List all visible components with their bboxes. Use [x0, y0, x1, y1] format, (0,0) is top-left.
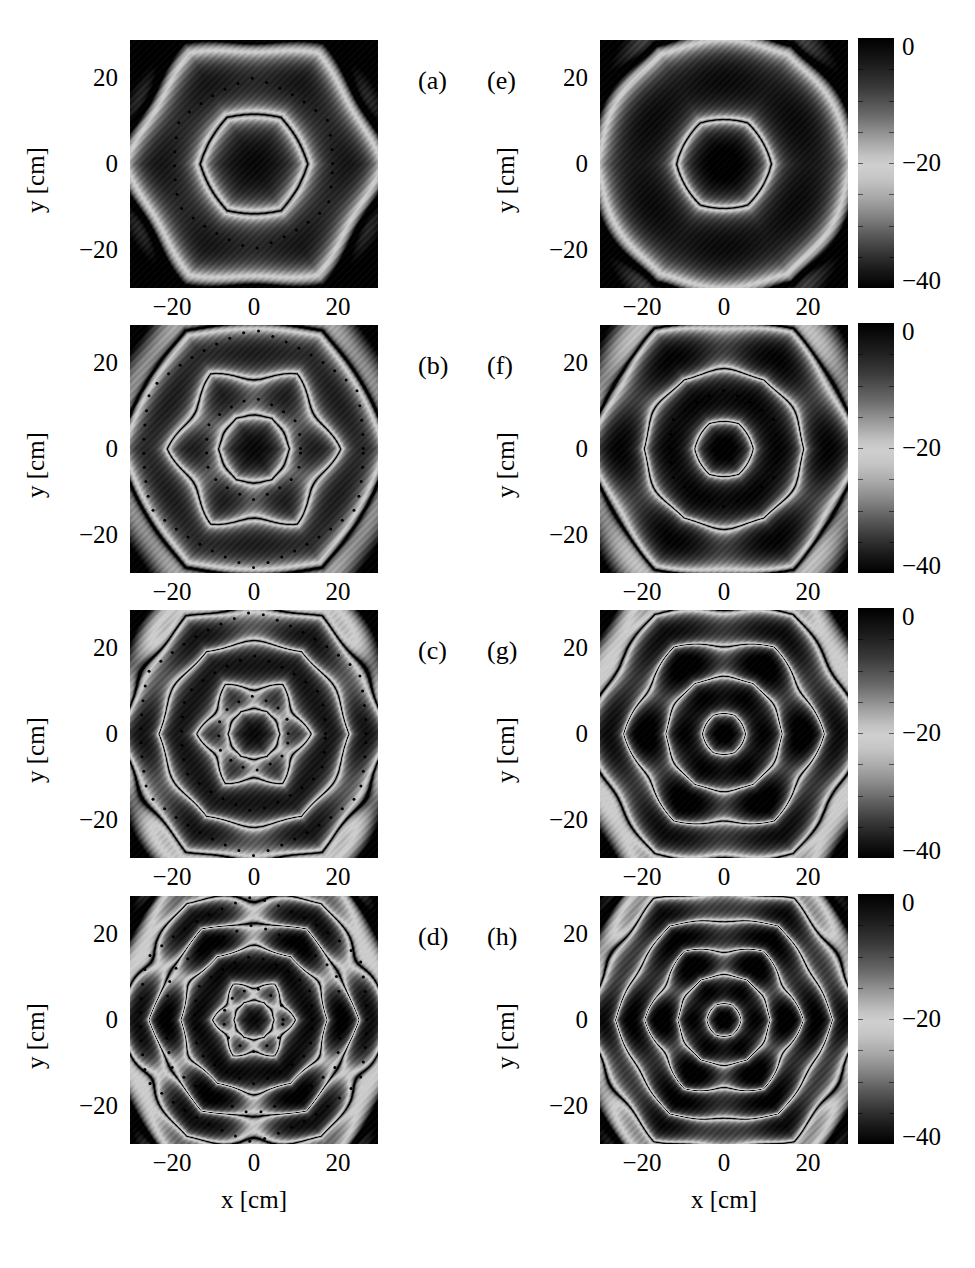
- panel-f-xtick-1: 0: [684, 579, 764, 604]
- colorbar-tick-right-4: [889, 1019, 894, 1020]
- panel-g-yaxis-title: y [cm]: [492, 717, 520, 783]
- colorbar-tick-right-4: [889, 448, 894, 449]
- panel-e-xtick-1: 0: [684, 294, 764, 319]
- panel-a-ytick-2: −20: [52, 237, 118, 262]
- panel-b-image: [130, 325, 378, 573]
- panel-h-colorbar-label-0: 0: [902, 890, 915, 915]
- colorbar-tick-left-7: [858, 542, 863, 543]
- panel-g-image: [600, 610, 848, 858]
- colorbar-tick-left-4: [858, 448, 863, 449]
- panel-c-ytick-0: 20: [52, 635, 118, 660]
- panel-c-xtick-0: −20: [132, 864, 212, 889]
- panel-f-image: [600, 325, 848, 573]
- panel-c-ytick-2: −20: [52, 807, 118, 832]
- panel-g-label: (g): [487, 636, 517, 666]
- panel-h-xtick-0: −20: [602, 1150, 682, 1175]
- panel-d-yaxis-title: y [cm]: [22, 1003, 50, 1069]
- panel-e-yaxis-title: y [cm]: [492, 147, 520, 213]
- colorbar-tick-right-2: [889, 101, 894, 102]
- panel-e-ytick-1: 0: [522, 151, 588, 176]
- colorbar-tick-right-7: [889, 827, 894, 828]
- panel-f-yaxis-title: y [cm]: [492, 432, 520, 498]
- colorbar-tick-left-1: [858, 69, 863, 70]
- panel-b-label: (b): [418, 351, 448, 381]
- panel-d-ytick-0: 20: [52, 921, 118, 946]
- panel-e-canvas: [600, 40, 848, 288]
- panel-f-xtick-0: −20: [602, 579, 682, 604]
- panel-d-ytick-1: 0: [52, 1007, 118, 1032]
- panel-h-ytick-0: 20: [522, 921, 588, 946]
- panel-h-xtick-2: 20: [768, 1150, 848, 1175]
- panel-b-xtick-1: 0: [214, 579, 294, 604]
- colorbar-tick-left-4: [858, 163, 863, 164]
- colorbar-tick-left-1: [858, 639, 863, 640]
- panel-a-yaxis-title: y [cm]: [22, 147, 50, 213]
- panel-c-label: (c): [418, 636, 447, 666]
- panel-c-yaxis-title: y [cm]: [22, 717, 50, 783]
- panel-a-label: (a): [418, 66, 447, 96]
- panel-d-label: (d): [418, 922, 448, 952]
- panel-h-colorbar[interactable]: [858, 894, 894, 1144]
- colorbar-tick-right-5: [889, 764, 894, 765]
- panel-a-ytick-1: 0: [52, 151, 118, 176]
- colorbar-tick-right-1: [889, 69, 894, 70]
- colorbar-tick-left-6: [858, 796, 863, 797]
- panel-e-colorbar[interactable]: [858, 38, 894, 288]
- panel-e-colorbar-label-0: 0: [902, 34, 915, 59]
- colorbar-tick-right-1: [889, 639, 894, 640]
- panel-f-xtick-2: 20: [768, 579, 848, 604]
- panel-a-xtick-2: 20: [298, 294, 378, 319]
- panel-f-colorbar-label-1: −20: [902, 435, 941, 460]
- panel-a-canvas: [130, 40, 378, 288]
- colorbar-tick-left-3: [858, 417, 863, 418]
- panel-f-label: (f): [487, 351, 513, 381]
- colorbar-tick-right-3: [889, 417, 894, 418]
- colorbar-tick-right-4: [889, 163, 894, 164]
- panel-d-xtick-1: 0: [214, 1150, 294, 1175]
- colorbar-tick-right-3: [889, 702, 894, 703]
- colorbar-tick-left-2: [858, 101, 863, 102]
- panel-e-label: (e): [487, 66, 516, 96]
- colorbar-tick-right-6: [889, 226, 894, 227]
- colorbar-tick-right-6: [889, 1082, 894, 1083]
- panel-g-colorbar-label-0: 0: [902, 604, 915, 629]
- panel-f-colorbar[interactable]: [858, 323, 894, 573]
- colorbar-tick-right-6: [889, 511, 894, 512]
- colorbar-tick-right-1: [889, 354, 894, 355]
- panel-a-image: [130, 40, 378, 288]
- colorbar-tick-right-1: [889, 925, 894, 926]
- colorbar-tick-right-5: [889, 1050, 894, 1051]
- panel-b-ytick-1: 0: [52, 436, 118, 461]
- panel-g-ytick-0: 20: [522, 635, 588, 660]
- colorbar-tick-right-3: [889, 132, 894, 133]
- panel-f-canvas: [600, 325, 848, 573]
- panel-h-yaxis-title: y [cm]: [492, 1003, 520, 1069]
- colorbar-tick-right-7: [889, 542, 894, 543]
- colorbar-tick-right-6: [889, 796, 894, 797]
- colorbar-tick-right-2: [889, 671, 894, 672]
- panel-h-colorbar-label-1: −20: [902, 1006, 941, 1031]
- panel-c-ytick-1: 0: [52, 721, 118, 746]
- panel-e-xtick-0: −20: [602, 294, 682, 319]
- colorbar-tick-left-5: [858, 479, 863, 480]
- colorbar-tick-left-2: [858, 957, 863, 958]
- colorbar-tick-left-1: [858, 925, 863, 926]
- panel-e-ytick-2: −20: [522, 237, 588, 262]
- colorbar-tick-left-6: [858, 511, 863, 512]
- panel-h-xtick-1: 0: [684, 1150, 764, 1175]
- panel-g-colorbar[interactable]: [858, 608, 894, 858]
- panel-d-canvas: [130, 896, 378, 1144]
- panel-c-canvas: [130, 610, 378, 858]
- panel-f-colorbar-label-2: −40: [902, 553, 941, 578]
- panel-h-xaxis-title: x [cm]: [644, 1186, 804, 1214]
- panel-g-colorbar-label-2: −40: [902, 838, 941, 863]
- colorbar-tick-left-7: [858, 257, 863, 258]
- panel-c-image: [130, 610, 378, 858]
- panel-h-label: (h): [487, 922, 517, 952]
- colorbar-tick-left-4: [858, 733, 863, 734]
- panel-a-ytick-0: 20: [52, 65, 118, 90]
- panel-e-ytick-0: 20: [522, 65, 588, 90]
- panel-h-canvas: [600, 896, 848, 1144]
- panel-g-xtick-1: 0: [684, 864, 764, 889]
- colorbar-tick-left-1: [858, 354, 863, 355]
